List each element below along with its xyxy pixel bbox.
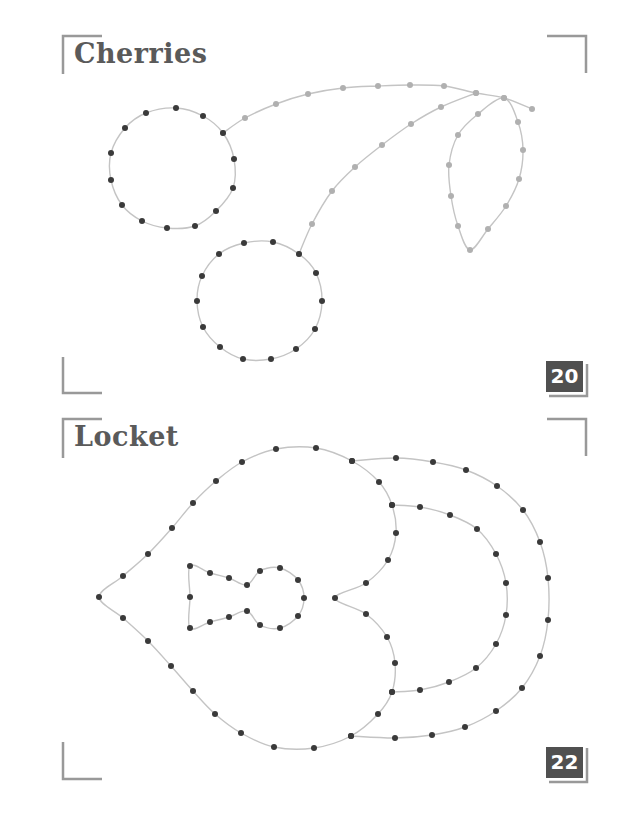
dot-point — [311, 745, 317, 751]
dot-point — [446, 679, 452, 685]
dot-point — [375, 711, 381, 717]
dot-point — [503, 612, 509, 618]
dot-point — [545, 617, 551, 623]
dot-point — [313, 445, 319, 451]
dot-point — [239, 459, 245, 465]
dot-point — [207, 570, 213, 576]
dot-point — [494, 483, 500, 489]
dot-point — [446, 162, 452, 168]
dot-point — [493, 641, 499, 647]
dot-point — [230, 185, 236, 191]
dot-point — [385, 557, 391, 563]
dot-point — [309, 221, 315, 227]
dot-point — [363, 580, 369, 586]
dot-point — [438, 104, 444, 110]
dot-point — [244, 608, 250, 614]
dot-point — [349, 458, 355, 464]
dot-point — [417, 504, 423, 510]
dot-point — [271, 744, 277, 750]
dot-point — [96, 594, 102, 600]
dot-point — [463, 467, 469, 473]
dot-point — [194, 298, 200, 304]
dot-point — [293, 346, 299, 352]
dot-point — [187, 563, 193, 569]
inner-strap-outline — [392, 505, 507, 692]
dot-point — [329, 188, 335, 194]
dot-point — [448, 193, 454, 199]
dot-point — [393, 455, 399, 461]
dot-point — [190, 688, 196, 694]
dot-point — [430, 459, 436, 465]
stem-lower-outline — [299, 93, 476, 254]
dot-point — [145, 638, 151, 644]
dot-point — [212, 711, 218, 717]
dot-point — [503, 203, 509, 209]
dot-point — [537, 653, 543, 659]
dot-point — [313, 270, 319, 276]
dot-point — [295, 577, 301, 583]
dot-point — [190, 500, 196, 506]
page-number-badge: 22 — [546, 747, 583, 778]
dot-point — [277, 625, 283, 631]
dot-point — [352, 164, 358, 170]
dot-point — [164, 225, 170, 231]
dot-point — [473, 665, 479, 671]
puzzle-page: Cherries 20 Locket 22 — [0, 0, 627, 823]
dot-point — [257, 568, 263, 574]
dot-point — [417, 687, 423, 693]
cherries-drawing — [108, 82, 535, 362]
dot-point — [226, 575, 232, 581]
dot-point — [537, 539, 543, 545]
dot-point — [520, 147, 526, 153]
dot-point — [122, 125, 128, 131]
dot-point — [187, 625, 193, 631]
dot-point — [296, 251, 302, 257]
dot-point — [545, 575, 551, 581]
locket-frame-brackets — [63, 419, 587, 782]
dot-point — [168, 663, 174, 669]
dot-point — [441, 83, 447, 89]
dot-point — [467, 247, 473, 253]
dot-point — [244, 582, 250, 588]
dot-point — [108, 177, 114, 183]
dot-point — [475, 111, 481, 117]
dot-point — [455, 132, 461, 138]
dot-point — [216, 251, 222, 257]
dot-point — [520, 507, 526, 513]
dot-point — [120, 615, 126, 621]
dot-point — [217, 344, 223, 350]
dot-point — [226, 614, 232, 620]
dot-point — [241, 240, 247, 246]
dot-point — [268, 356, 274, 362]
dot-point — [119, 202, 125, 208]
dot-point — [187, 594, 193, 600]
dot-point — [273, 446, 279, 452]
dot-point — [173, 105, 179, 111]
dot-point — [200, 113, 206, 119]
dot-point — [455, 223, 461, 229]
dot-point — [295, 613, 301, 619]
dot-point — [199, 273, 205, 279]
dot-point — [529, 106, 535, 112]
dot-point — [240, 356, 246, 362]
dot-point — [192, 223, 198, 229]
dot-point — [474, 526, 480, 532]
dot-point — [407, 82, 413, 88]
dot-point — [493, 551, 499, 557]
page-number-badge: 20 — [546, 361, 583, 392]
dot-point — [462, 724, 468, 730]
dot-point — [447, 512, 453, 518]
dot-point — [242, 115, 248, 121]
dot-point — [257, 622, 263, 628]
outer-strap-outline — [351, 458, 549, 738]
keyhole-outline — [189, 565, 304, 629]
dot-point — [501, 95, 507, 101]
locket-title: Locket — [74, 421, 179, 452]
locket-drawing — [96, 445, 551, 751]
dot-point — [120, 573, 126, 579]
cherries-title: Cherries — [74, 38, 207, 69]
cherry-right-outline — [197, 241, 322, 360]
dot-point — [376, 479, 382, 485]
dot-point — [238, 730, 244, 736]
dot-point — [393, 530, 399, 536]
